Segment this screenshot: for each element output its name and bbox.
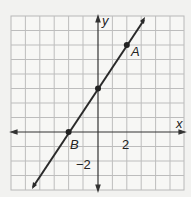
point-y-intercept bbox=[95, 86, 101, 92]
point-a bbox=[124, 42, 130, 48]
coordinate-plane: y x A B 2 −2 bbox=[0, 0, 191, 197]
x-tick-label: 2 bbox=[122, 137, 129, 152]
y-tick-label: −2 bbox=[76, 157, 91, 172]
point-b-label: B bbox=[70, 137, 79, 152]
x-axis-label: x bbox=[175, 116, 183, 131]
point-b bbox=[66, 129, 72, 135]
point-a-label: A bbox=[130, 44, 140, 59]
